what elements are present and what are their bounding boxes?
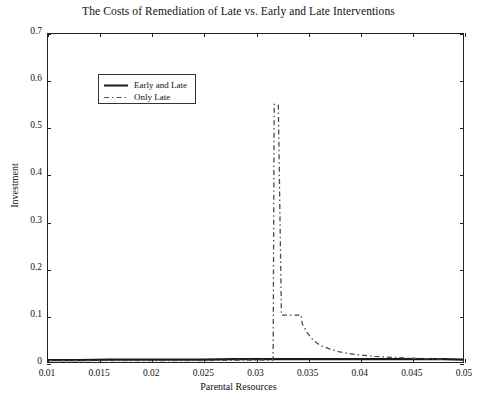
x-axis-tick bbox=[361, 359, 362, 363]
x-axis-tick bbox=[361, 33, 362, 37]
y-axis-tick bbox=[47, 223, 51, 224]
x-axis-tick bbox=[309, 33, 310, 37]
plot-area: Early and Late Only Late bbox=[47, 33, 464, 363]
x-axis-tick bbox=[100, 359, 101, 363]
y-axis-tick bbox=[47, 34, 51, 35]
x-axis-tick bbox=[204, 33, 205, 37]
x-axis-tick bbox=[309, 359, 310, 363]
legend-label-only-late: Only Late bbox=[129, 91, 170, 103]
x-axis-tick-label: 0.025 bbox=[173, 368, 233, 378]
y-axis-tick bbox=[460, 270, 464, 271]
x-axis-tick-label: 0.02 bbox=[121, 368, 181, 378]
x-axis-tick-label: 0.05 bbox=[434, 368, 477, 378]
x-axis-tick bbox=[413, 359, 414, 363]
series-line-only-late bbox=[48, 104, 442, 360]
legend-item-only-late: Only Late bbox=[99, 90, 195, 102]
y-axis-tick bbox=[460, 223, 464, 224]
x-axis-tick-label: 0.03 bbox=[226, 368, 286, 378]
y-axis-tick-label: 0.6 bbox=[2, 73, 42, 83]
x-axis-tick bbox=[465, 359, 466, 363]
y-axis-tick bbox=[47, 175, 51, 176]
y-axis-tick bbox=[460, 364, 464, 365]
x-axis-tick bbox=[413, 33, 414, 37]
y-axis-tick bbox=[460, 175, 464, 176]
x-axis-tick bbox=[257, 359, 258, 363]
x-axis-tick-label: 0.015 bbox=[69, 368, 129, 378]
legend: Early and Late Only Late bbox=[98, 74, 196, 104]
y-axis-title: Investment bbox=[9, 86, 20, 286]
y-axis-tick-label: 0.7 bbox=[2, 26, 42, 36]
x-axis-tick bbox=[152, 359, 153, 363]
legend-item-early-and-late: Early and Late bbox=[99, 78, 195, 90]
legend-swatch-dashed-icon bbox=[103, 93, 129, 102]
y-axis-tick bbox=[47, 270, 51, 271]
y-axis-tick bbox=[460, 128, 464, 129]
chart-title: The Costs of Remediation of Late vs. Ear… bbox=[0, 5, 477, 17]
x-axis-tick bbox=[465, 33, 466, 37]
y-axis-tick bbox=[460, 317, 464, 318]
legend-swatch-solid-icon bbox=[103, 81, 129, 90]
x-axis-tick-label: 0.035 bbox=[278, 368, 338, 378]
x-axis-tick-label: 0.04 bbox=[330, 368, 390, 378]
x-axis-tick-label: 0.01 bbox=[17, 368, 77, 378]
y-axis-tick bbox=[47, 317, 51, 318]
y-axis-tick bbox=[460, 81, 464, 82]
y-axis-tick bbox=[47, 128, 51, 129]
figure: The Costs of Remediation of Late vs. Ear… bbox=[0, 0, 477, 407]
x-axis-tick bbox=[100, 33, 101, 37]
y-axis-tick bbox=[460, 34, 464, 35]
x-axis-tick bbox=[152, 33, 153, 37]
x-axis-title: Parental Resources bbox=[0, 381, 477, 392]
x-axis-tick bbox=[48, 359, 49, 363]
y-axis-tick bbox=[47, 364, 51, 365]
y-axis-tick bbox=[47, 81, 51, 82]
y-axis-tick-label: 0 bbox=[2, 356, 42, 366]
x-axis-tick bbox=[257, 33, 258, 37]
x-axis-tick-label: 0.045 bbox=[382, 368, 442, 378]
x-axis-tick bbox=[204, 359, 205, 363]
y-axis-tick-label: 0.1 bbox=[2, 309, 42, 319]
